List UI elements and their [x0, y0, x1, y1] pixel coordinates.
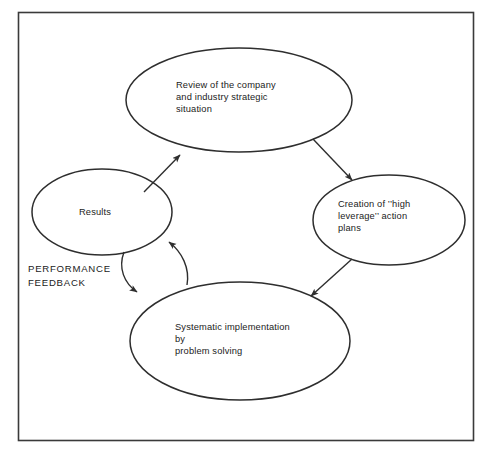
performance-feedback-label: PERFORMANCE FEEDBACK: [28, 262, 111, 290]
diagram-canvas: [0, 0, 488, 459]
node-results-ellipse: [32, 169, 172, 255]
process-cycle-diagram: Review of the company and industry strat…: [0, 0, 488, 459]
node-systematic-ellipse: [130, 282, 350, 400]
node-review-ellipse: [126, 48, 352, 152]
node-creation-ellipse: [313, 175, 465, 265]
